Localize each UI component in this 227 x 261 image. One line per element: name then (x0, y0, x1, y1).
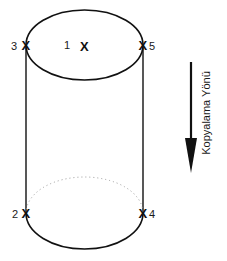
cylinder-diagram: 1 X 3 X X 5 2 X X 4 Kopyalama Yönü (0, 0, 227, 261)
point-4-label: 4 (149, 208, 155, 220)
bottom-ellipse-hidden-edge (26, 177, 143, 213)
point-4-marker: X (139, 206, 148, 221)
point-3-label: 3 (11, 40, 17, 52)
direction-arrow (185, 62, 197, 173)
bottom-ellipse-front-edge (26, 213, 143, 249)
direction-label: Kopyalama Yönü (200, 71, 212, 155)
point-3-marker: X (22, 38, 31, 53)
point-1-label: 1 (64, 39, 70, 51)
point-2-marker: X (22, 206, 31, 221)
point-1-marker: X (80, 39, 89, 54)
point-5-label: 5 (149, 40, 155, 52)
point-5-marker: X (139, 38, 148, 53)
arrow-down-icon (185, 138, 197, 173)
point-2-label: 2 (12, 208, 18, 220)
